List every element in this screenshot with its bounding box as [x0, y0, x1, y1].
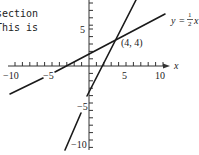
x-tick-label-neg10: −10	[3, 70, 19, 81]
x-axis-label: x	[173, 60, 179, 71]
y-axis	[89, 0, 93, 150]
graph: −10 −5 5 10 x 5 −5 −10 (4, 4) y = 1 2 x	[0, 0, 199, 155]
svg-text:2: 2	[188, 20, 192, 28]
svg-text:x: x	[193, 15, 199, 26]
svg-text:=: =	[179, 15, 185, 26]
x-tick-label-neg5: −5	[43, 70, 54, 81]
line-equation-label: y = 1 2 x	[170, 11, 199, 28]
x-tick-label-5: 5	[122, 70, 127, 81]
y-tick-label-neg10: −10	[71, 139, 87, 150]
svg-text:y: y	[170, 15, 176, 26]
x-tick-label-10: 10	[155, 70, 165, 81]
y-axis-ticks	[89, 3, 93, 147]
svg-text:1: 1	[188, 11, 192, 19]
y-tick-label-5: 5	[80, 24, 85, 35]
x-axis-arrow-icon	[163, 64, 170, 69]
intersection-label: (4, 4)	[121, 37, 143, 49]
line-half-x	[10, 14, 165, 94]
y-tick-label-neg5: −5	[77, 101, 88, 112]
